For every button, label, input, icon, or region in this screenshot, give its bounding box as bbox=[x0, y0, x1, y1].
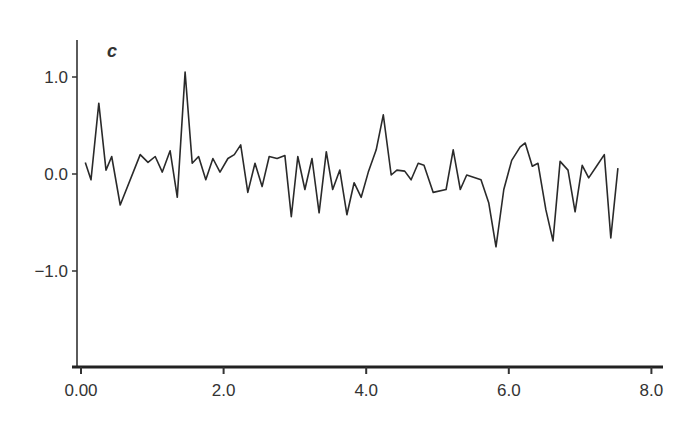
panel-label: c bbox=[107, 41, 117, 61]
y-tick-label: 0.0 bbox=[44, 165, 68, 184]
line-chart: 1.00.0−1.0 0.002.04.06.08.0 c bbox=[0, 0, 673, 424]
x-tick-label: 4.0 bbox=[354, 381, 378, 400]
series-group bbox=[85, 72, 618, 247]
x-tick-label: 8.0 bbox=[640, 381, 664, 400]
x-tick-label: 2.0 bbox=[212, 381, 236, 400]
data-series-line bbox=[85, 72, 618, 247]
x-tick-label: 6.0 bbox=[497, 381, 521, 400]
x-tick-label: 0.00 bbox=[64, 381, 97, 400]
y-tick-label: −1.0 bbox=[34, 262, 68, 281]
y-axis: 1.00.0−1.0 bbox=[34, 40, 77, 367]
x-axis: 0.002.04.06.08.0 bbox=[64, 367, 663, 400]
y-tick-label: 1.0 bbox=[44, 68, 68, 87]
